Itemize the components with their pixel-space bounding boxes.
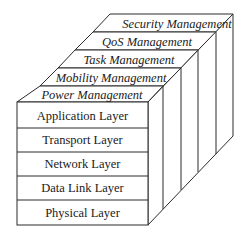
layer-label-physical: Physical Layer bbox=[45, 206, 120, 220]
protocol-stack-diagram: Security Management QoS Management Task … bbox=[0, 0, 248, 237]
plane-label-mobility: Mobility Management bbox=[55, 71, 167, 85]
plane-label-power: Power Management bbox=[40, 88, 143, 102]
layer-label-network: Network Layer bbox=[44, 157, 121, 171]
layer-label-data-link: Data Link Layer bbox=[41, 181, 124, 195]
layer-label-application: Application Layer bbox=[37, 109, 129, 123]
plane-label-qos: QoS Management bbox=[102, 35, 192, 49]
plane-label-security: Security Management bbox=[122, 17, 232, 31]
plane-label-task: Task Management bbox=[84, 53, 175, 67]
layer-label-transport: Transport Layer bbox=[42, 133, 123, 147]
